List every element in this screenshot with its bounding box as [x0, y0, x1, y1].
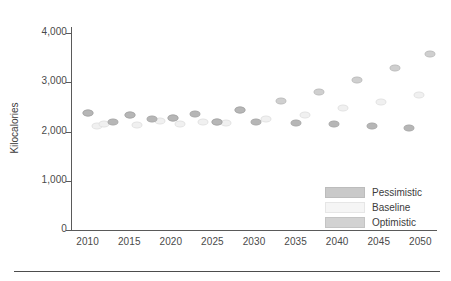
data-point [190, 111, 201, 118]
data-point [261, 116, 272, 123]
y-tick-label: 4,000 [41, 26, 67, 37]
legend-swatch [325, 187, 365, 198]
y-tick-label: 0 [61, 223, 67, 234]
data-point [108, 119, 119, 126]
x-tick-label: 2025 [201, 236, 224, 247]
data-point [338, 105, 349, 112]
legend-label: Pessimistic [372, 187, 422, 198]
y-axis-title: Kilocalories [9, 102, 20, 153]
x-tick-label: 2010 [76, 236, 99, 247]
data-point [367, 123, 378, 130]
data-point [276, 98, 287, 105]
y-tick-label: 3,000 [41, 75, 67, 86]
legend-item-pessimistic[interactable]: Pessimistic [325, 185, 422, 199]
legend-swatch [325, 217, 365, 228]
data-point [83, 110, 94, 117]
data-point [314, 89, 325, 96]
legend-swatch [325, 202, 365, 213]
data-point [329, 121, 340, 128]
x-tick-label: 2045 [367, 236, 390, 247]
x-axis-line [71, 230, 437, 231]
y-tick-label: 2,000 [41, 125, 67, 136]
legend-label: Optimistic [372, 217, 416, 228]
x-tick-label: 2030 [243, 236, 266, 247]
data-point [125, 112, 136, 119]
footer-divider [14, 271, 440, 272]
data-point [235, 107, 246, 114]
x-tick-label: 2015 [118, 236, 141, 247]
chart-figure: Kilocalories 01,0002,0003,0004,000 20102… [0, 0, 451, 281]
data-point [404, 125, 415, 132]
data-point [198, 119, 209, 126]
y-tick-label: 1,000 [41, 174, 67, 185]
legend-item-optimistic[interactable]: Optimistic [325, 215, 422, 229]
data-point [376, 99, 387, 106]
data-point [291, 120, 302, 127]
data-point [168, 115, 179, 122]
data-point [147, 116, 158, 123]
data-point [425, 51, 436, 58]
data-point [390, 65, 401, 72]
x-tick-label: 2035 [284, 236, 307, 247]
legend-item-baseline[interactable]: Baseline [325, 200, 422, 214]
data-point [212, 119, 223, 126]
x-tick-label: 2040 [326, 236, 349, 247]
legend-label: Baseline [372, 202, 410, 213]
data-point [132, 122, 143, 129]
data-point [251, 119, 262, 126]
data-point [352, 77, 363, 84]
x-tick-label: 2050 [409, 236, 432, 247]
data-point [300, 112, 311, 119]
data-point [175, 121, 186, 128]
x-tick-label: 2020 [159, 236, 182, 247]
data-point [414, 92, 425, 99]
chart-legend: PessimisticBaselineOptimistic [325, 185, 422, 230]
